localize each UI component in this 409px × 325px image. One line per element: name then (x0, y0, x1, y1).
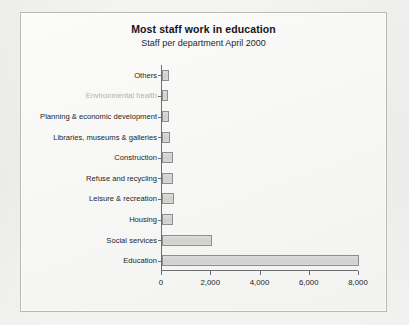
bar-row: Libraries, museums & galleries (162, 132, 359, 143)
y-axis-tick (158, 117, 162, 118)
chart-subtitle: Staff per department April 2000 (21, 37, 386, 49)
y-axis-tick (158, 220, 162, 221)
bar (162, 70, 169, 81)
y-axis-tick (158, 240, 162, 241)
y-axis-tick (158, 261, 162, 262)
bar-row: Planning & economic development (162, 111, 359, 122)
x-axis-tick (309, 271, 310, 275)
y-axis-tick (158, 199, 162, 200)
x-axis-tick (210, 271, 211, 275)
bar (162, 173, 173, 184)
bar-row: Education (162, 255, 359, 266)
bar-row: Construction (162, 152, 359, 163)
category-label: Planning & economic development (40, 112, 157, 121)
x-axis-tick-label: 4,000 (250, 278, 270, 287)
x-axis-tick-label: 8,000 (348, 278, 368, 287)
category-label: Others (134, 71, 157, 80)
category-label: Social services (106, 236, 157, 245)
x-axis-tick-label: 0 (159, 278, 163, 287)
y-axis-tick (158, 178, 162, 179)
category-label: Environmental health (86, 91, 157, 100)
bar (162, 193, 174, 204)
bar (162, 214, 173, 225)
category-label: Leisure & recreation (89, 194, 157, 203)
chart-frame: Most staff work in education Staff per d… (20, 12, 387, 312)
chart-title: Most staff work in education (21, 23, 386, 36)
y-axis-tick (158, 75, 162, 76)
y-axis-tick (158, 96, 162, 97)
y-axis-tick (158, 137, 162, 138)
x-axis-tick-label: 6,000 (299, 278, 319, 287)
bar (162, 235, 212, 246)
scanned-page-background: Most staff work in education Staff per d… (0, 0, 409, 325)
bar (162, 255, 359, 266)
bar-row: Social services (162, 235, 359, 246)
bar (162, 90, 168, 101)
bar-row: Others (162, 70, 359, 81)
x-axis-tick (260, 271, 261, 275)
x-axis-tick (161, 271, 162, 275)
x-axis-tick-label: 2,000 (200, 278, 220, 287)
chart-header: Most staff work in education Staff per d… (21, 23, 386, 49)
bar-row: Leisure & recreation (162, 193, 359, 204)
bar-row: Refuse and recycling (162, 173, 359, 184)
x-axis-tick (358, 271, 359, 275)
category-label: Housing (129, 215, 157, 224)
plot-area: OthersEnvironmental healthPlanning & eco… (161, 65, 358, 271)
category-label: Education (123, 256, 157, 265)
bar (162, 152, 173, 163)
bar-row: Environmental health (162, 90, 359, 101)
bar (162, 132, 170, 143)
y-axis-tick (158, 158, 162, 159)
category-label: Construction (114, 153, 157, 162)
bar-row: Housing (162, 214, 359, 225)
bar (162, 111, 169, 122)
category-label: Libraries, museums & galleries (53, 133, 157, 142)
category-label: Refuse and recycling (86, 174, 157, 183)
